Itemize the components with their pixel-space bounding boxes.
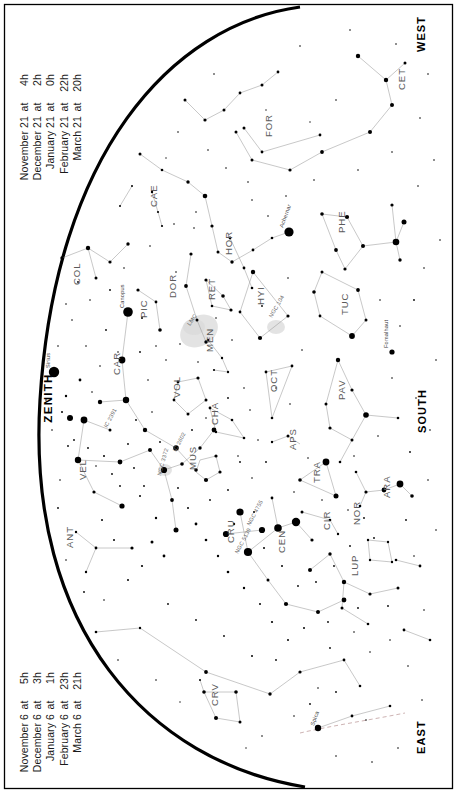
svg-text:Sirius: Sirius: [45, 353, 51, 368]
smc-nebula: [267, 320, 285, 334]
svg-text:Spica: Spica: [309, 710, 320, 727]
date-text: January 21: [44, 116, 57, 182]
date-at-word: at: [71, 98, 84, 116]
date-at-word: at: [18, 696, 31, 714]
svg-text:PAV: PAV: [336, 380, 347, 400]
cardinal-west: WEST: [415, 16, 427, 52]
star-field: [45, 29, 441, 763]
svg-text:NOR: NOR: [351, 501, 362, 525]
time-text: 21h: [71, 672, 84, 696]
svg-text:FOR: FOR: [263, 114, 274, 137]
svg-text:HOR: HOR: [223, 231, 234, 255]
svg-text:ARA: ARA: [381, 476, 392, 498]
time-text: 23h: [58, 672, 71, 696]
svg-text:IC 2391: IC 2391: [103, 407, 118, 428]
time-text: 20h: [71, 74, 84, 98]
time-text: 1h: [44, 672, 57, 696]
date-at-word: at: [44, 696, 57, 714]
lower-date-list: November 6at5hDecember 6at3hJanuary 6at1…: [18, 672, 84, 780]
time-text: 4h: [18, 74, 31, 98]
date-at-word: at: [58, 98, 71, 116]
date-text: February 6: [58, 714, 71, 780]
svg-text:Achernar: Achernar: [278, 203, 292, 228]
date-time-line: November 21at4h: [18, 74, 31, 182]
date-at-word: at: [44, 98, 57, 116]
date-text: February 21: [58, 116, 71, 182]
date-at-word: at: [31, 696, 44, 714]
svg-text:NGC 104: NGC 104: [268, 294, 286, 318]
date-at-word: at: [58, 696, 71, 714]
star-chart-root: CET FOR PHE CAE HOR RET COL PIC DOR MEN …: [0, 0, 457, 793]
svg-text:VOL: VOL: [171, 376, 182, 398]
svg-text:CAE: CAE: [148, 185, 159, 207]
svg-text:RET: RET: [206, 278, 217, 300]
svg-text:MUS: MUS: [187, 446, 198, 470]
svg-text:APS: APS: [287, 428, 298, 450]
svg-text:OCT: OCT: [268, 369, 279, 392]
time-text: 22h: [58, 74, 71, 98]
date-text: January 6: [44, 714, 57, 780]
date-text: December 21: [31, 116, 44, 182]
date-text: March 6: [71, 714, 84, 780]
date-at-word: at: [18, 98, 31, 116]
svg-text:CRU: CRU: [225, 520, 236, 544]
svg-text:ANT: ANT: [64, 526, 75, 548]
svg-text:CEN: CEN: [276, 530, 287, 553]
date-time-line: January 6at1h: [44, 672, 57, 780]
svg-text:IC 2602: IC 2602: [172, 431, 187, 452]
svg-text:PHE: PHE: [336, 211, 347, 233]
date-time-line: November 6at5h: [18, 672, 31, 780]
time-text: 3h: [31, 672, 44, 696]
constellation-labels: CET FOR PHE CAE HOR RET COL PIC DOR MEN …: [64, 68, 407, 706]
date-text: November 6: [18, 714, 31, 780]
svg-text:CHA: CHA: [209, 402, 220, 425]
svg-text:Fomalhaut: Fomalhaut: [383, 320, 389, 348]
time-text: 0h: [44, 74, 57, 98]
svg-text:CAR: CAR: [111, 352, 122, 375]
svg-text:CRV: CRV: [209, 683, 220, 706]
svg-text:Canopus: Canopus: [119, 284, 125, 308]
svg-text:TUC: TUC: [339, 293, 350, 315]
svg-text:LUP: LUP: [349, 555, 360, 576]
svg-text:DOR: DOR: [167, 274, 178, 298]
date-text: December 6: [31, 714, 44, 780]
date-time-line: December 21at2h: [31, 74, 44, 182]
svg-text:TRA: TRA: [311, 461, 322, 483]
date-time-line: January 21at0h: [44, 74, 57, 182]
zenith-label: ZENITH: [42, 373, 54, 422]
date-time-line: February 21at22h: [58, 74, 71, 182]
cardinal-south: SOUTH: [416, 389, 428, 433]
date-at-word: at: [31, 98, 44, 116]
svg-text:MEN: MEN: [204, 328, 215, 352]
star-spica: [315, 725, 321, 731]
svg-text:COL: COL: [71, 263, 82, 285]
svg-text:HYI: HYI: [255, 286, 266, 305]
date-at-word: at: [71, 696, 84, 714]
time-text: 5h: [18, 672, 31, 696]
date-time-line: December 6at3h: [31, 672, 44, 780]
svg-text:VEL: VEL: [77, 459, 88, 480]
svg-text:NGC 4755: NGC 4755: [246, 499, 264, 527]
constellation-lines: [62, 56, 430, 728]
date-text: March 21: [71, 116, 84, 182]
star-fomalhaut: [389, 349, 394, 354]
cardinal-east: EAST: [415, 720, 427, 754]
date-text: November 21: [18, 116, 31, 182]
svg-text:CET: CET: [396, 68, 407, 90]
svg-text:CIR: CIR: [321, 511, 332, 530]
star-achernar: [284, 227, 293, 236]
time-text: 2h: [31, 74, 44, 98]
svg-text:PIC: PIC: [138, 299, 149, 318]
date-time-line: March 21at20h: [71, 74, 84, 182]
date-time-line: February 6at23h: [58, 672, 71, 780]
date-time-line: March 6at21h: [71, 672, 84, 780]
star-name-labels: Achernar Canopus Sirius Fomalhaut Spica: [45, 203, 389, 726]
upper-date-list: November 21at4hDecember 21at2hJanuary 21…: [18, 74, 84, 182]
